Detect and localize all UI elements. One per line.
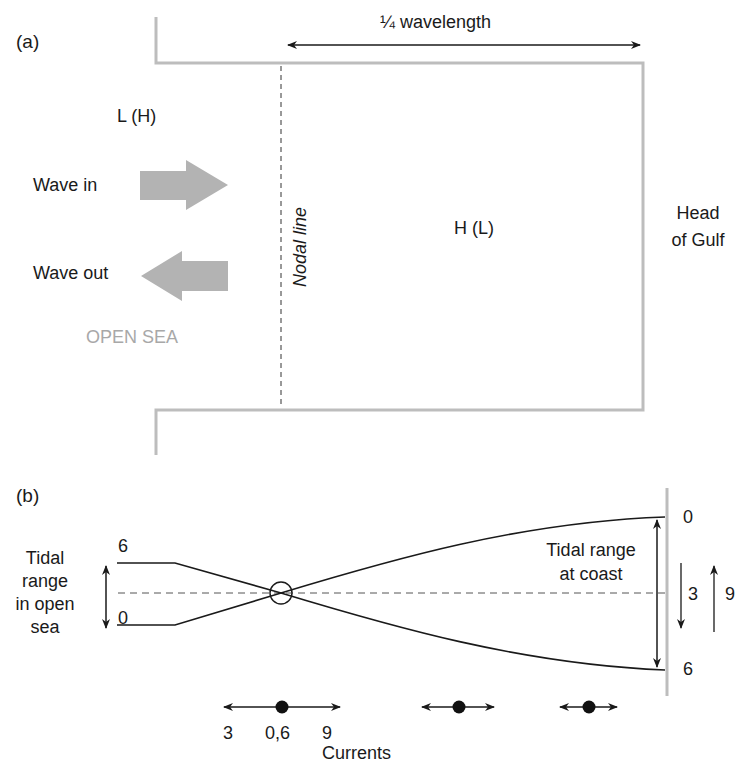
open-sea-range-line2: range (10, 572, 80, 590)
open-sea-range-line3: in open (10, 595, 80, 613)
gulf-tide-label: H (L) (454, 219, 494, 237)
coast-down-value: 3 (688, 585, 698, 603)
current-center-value: 0,6 (265, 724, 290, 742)
current-indicator-node (224, 701, 340, 714)
low-water-curve (117, 593, 665, 670)
wave-out-arrow-icon (141, 251, 228, 301)
head-of-gulf-label-line2: of Gulf (658, 231, 738, 249)
wave-in-arrow-icon (140, 160, 228, 210)
head-of-gulf-label-line1: Head (658, 204, 738, 222)
wavelength-label: ¼ wavelength (380, 13, 491, 31)
current-left-value: 3 (223, 724, 233, 742)
open-sea-range-line1: Tidal (10, 549, 80, 567)
open-sea-tide-label: L (H) (117, 107, 156, 125)
coast-range-line2: at coast (528, 565, 654, 583)
coast-range-line1: Tidal range (528, 541, 654, 559)
diagram-canvas (0, 0, 752, 766)
nodal-line-label: Nodal line (291, 197, 309, 297)
current-indicator-mid (422, 701, 494, 714)
panel-b-label: (b) (16, 486, 39, 505)
wave-out-label: Wave out (33, 264, 108, 282)
gulf-outline (156, 17, 643, 455)
current-indicator-near-coast (560, 701, 617, 714)
coast-bottom-value: 6 (683, 660, 693, 678)
coast-up-value: 9 (725, 585, 735, 603)
wave-in-label: Wave in (33, 176, 97, 194)
open-sea-label: OPEN SEA (86, 328, 178, 346)
currents-title: Currents (322, 744, 391, 762)
open-sea-bottom-value: 0 (118, 609, 128, 627)
coast-top-value: 0 (683, 508, 693, 526)
open-sea-top-value: 6 (118, 537, 128, 555)
current-right-value: 9 (322, 724, 332, 742)
open-sea-range-line4: sea (10, 618, 80, 636)
panel-a-label: (a) (16, 32, 39, 51)
